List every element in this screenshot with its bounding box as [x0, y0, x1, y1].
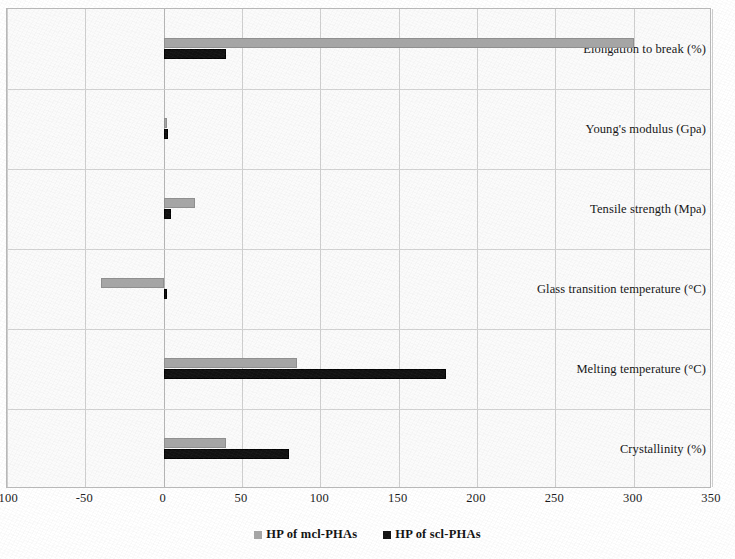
x-tick-label: 150: [388, 491, 407, 506]
bar-mcl-phas: [164, 358, 297, 368]
chart-category-row: Glass transition temperature (°C): [7, 249, 710, 329]
bar-mcl-phas: [164, 438, 227, 448]
bar-scl-phas: [164, 449, 289, 459]
plot-inner: Elongation to break (%)Young's modulus (…: [7, 9, 710, 487]
x-tick-label: 300: [623, 491, 642, 506]
chart-legend: HP of mcl-PHAsHP of scl-PHAs: [0, 527, 735, 542]
legend-item[interactable]: HP of mcl-PHAs: [254, 527, 357, 542]
chart-figure: Elongation to break (%)Young's modulus (…: [0, 0, 735, 559]
legend-label: HP of scl-PHAs: [395, 527, 480, 542]
gridline-x-350: [712, 9, 713, 487]
x-tick-label: -50: [76, 491, 93, 506]
category-label: Young's modulus (Gpa): [536, 122, 710, 136]
category-label: Crystallinity (%): [536, 442, 710, 456]
chart-category-row: Tensile strength (Mpa): [7, 169, 710, 249]
bar-scl-phas: [164, 369, 446, 379]
bar-scl-phas: [164, 129, 169, 139]
chart-category-row: Elongation to break (%): [7, 9, 710, 89]
bar-scl-phas: [164, 289, 167, 299]
bar-scl-phas: [164, 49, 227, 59]
x-tick-label: 50: [235, 491, 248, 506]
x-tick-label: 100: [310, 491, 329, 506]
bar-mcl-phas: [101, 278, 164, 288]
chart-category-row: Crystallinity (%): [7, 409, 710, 489]
bar-scl-phas: [164, 209, 172, 219]
x-axis: -100-50050100150200250300350: [6, 489, 711, 513]
x-tick-label: -100: [0, 491, 18, 506]
bar-mcl-phas: [164, 198, 195, 208]
chart-category-row: Young's modulus (Gpa): [7, 89, 710, 169]
x-tick-label: 0: [159, 491, 165, 506]
legend-item[interactable]: HP of scl-PHAs: [383, 527, 480, 542]
plot-area: Elongation to break (%)Young's modulus (…: [6, 8, 711, 488]
x-tick-label: 250: [545, 491, 564, 506]
x-tick-label: 350: [701, 491, 720, 506]
legend-swatch-icon: [254, 531, 262, 539]
legend-label: HP of mcl-PHAs: [266, 527, 357, 542]
category-label: Melting temperature (°C): [536, 362, 710, 376]
bar-mcl-phas: [164, 118, 167, 128]
category-label: Tensile strength (Mpa): [536, 202, 710, 216]
chart-category-row: Melting temperature (°C): [7, 329, 710, 409]
category-label: Glass transition temperature (°C): [536, 282, 710, 296]
legend-swatch-icon: [383, 531, 391, 539]
x-tick-label: 200: [466, 491, 485, 506]
bar-mcl-phas: [164, 38, 634, 48]
